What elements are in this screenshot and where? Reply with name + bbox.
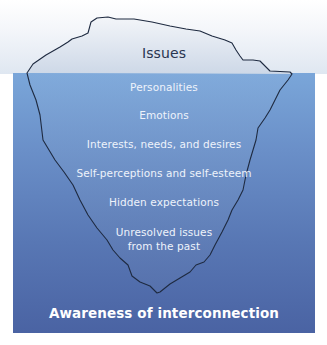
iceberg-diagram: Issues Personalities Emotions Interests,… <box>0 0 327 345</box>
label-personalities: Personalities <box>13 81 315 93</box>
iceberg-submerged <box>27 73 292 293</box>
label-self-perceptions: Self-perceptions and self-esteem <box>13 167 315 179</box>
label-unresolved-issues: Unresolved issues <box>13 226 315 238</box>
label-awareness-of-interconnection: Awareness of interconnection <box>13 305 315 321</box>
label-hidden-expectations: Hidden expectations <box>13 196 315 208</box>
label-issues: Issues <box>13 45 315 61</box>
label-interests-needs-desires: Interests, needs, and desires <box>13 138 315 150</box>
label-from-the-past: from the past <box>13 240 315 252</box>
label-emotions: Emotions <box>13 109 315 121</box>
